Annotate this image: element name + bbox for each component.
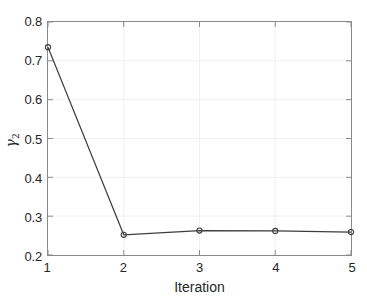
y-axis-title-text: γ2 xyxy=(3,133,22,147)
y-tick-label: 0.8 xyxy=(25,14,42,29)
data-line xyxy=(48,47,351,235)
y-tick-label: 0.4 xyxy=(25,170,42,185)
plot-area xyxy=(47,21,352,256)
y-tick-label: 0.3 xyxy=(25,209,42,224)
y-axis-title: γ2 xyxy=(0,128,32,152)
x-tick-label: 5 xyxy=(348,260,355,275)
x-tick-label: 4 xyxy=(272,260,279,275)
y-tick-label: 0.6 xyxy=(25,92,42,107)
x-axis-tick-labels: 12345 xyxy=(47,260,352,278)
x-tick-label: 1 xyxy=(43,260,50,275)
x-tick-label: 3 xyxy=(196,260,203,275)
x-tick-label: 2 xyxy=(120,260,127,275)
y-tick-label: 0.2 xyxy=(25,249,42,264)
data-series-layer xyxy=(48,22,351,255)
x-axis-title: Iteration xyxy=(47,279,352,295)
y-tick-label: 0.7 xyxy=(25,53,42,68)
chart-figure: 0.20.30.40.50.60.70.8 γ2 12345 Iteration xyxy=(0,0,367,304)
